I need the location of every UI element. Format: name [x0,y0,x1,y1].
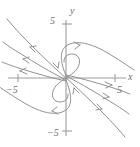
trajectory-loop-upper-right [61,43,134,76]
trajectory-upper-left-1 [7,19,67,79]
y-tick-label-negative-five: −5 [47,128,59,138]
y-tick-label-positive-five: 5 [50,16,55,26]
y-axis-label: y [70,6,74,16]
trajectory-lower-right-2 [66,76,129,114]
x-axis-label: x [128,72,132,82]
x-tick-label-positive-five: 5 [117,85,122,95]
phase-portrait-figure: y x 5 −5 −5 5 [0,0,140,147]
trajectory-lower-right-3 [65,77,125,137]
phase-portrait-canvas [0,0,140,147]
trajectory-family-upper-left [2,19,67,81]
x-tick-label-negative-five: −5 [6,85,18,95]
trajectory-upper-left-2 [3,42,66,80]
